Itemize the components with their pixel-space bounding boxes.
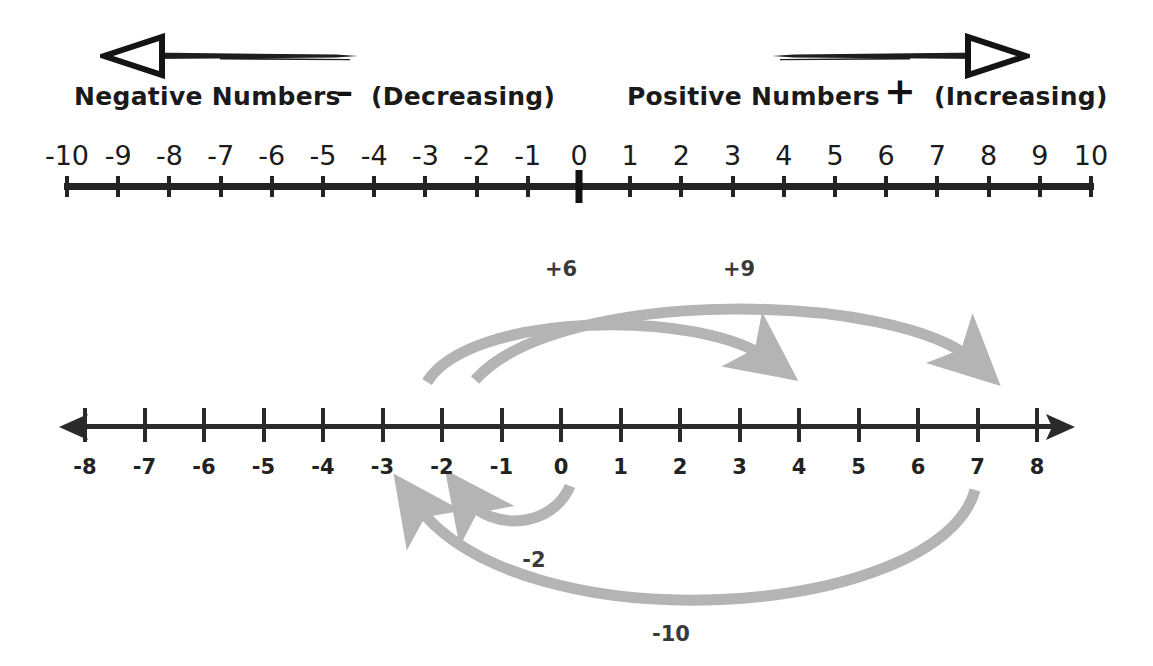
- numberline-bottom-tick-label: 8: [1030, 455, 1045, 479]
- numberline-bottom-tick: [916, 408, 920, 442]
- jump-plus-9-label: +9: [723, 257, 755, 281]
- numberline-bottom-tick: [321, 408, 325, 442]
- numberline-bottom-tick: [619, 408, 623, 442]
- numberline-bottom-tick-label: -1: [490, 455, 513, 479]
- numberline-bottom: -8-7-6-5-4-3-2-1012345678: [0, 380, 1153, 490]
- numberline-bottom-tick: [797, 408, 801, 442]
- numberline-bottom-tick-label: -8: [73, 455, 96, 479]
- worksheet-canvas: Negative Numbers – (Decreasing) Positive…: [0, 0, 1153, 666]
- numberline-bottom-left-arrowhead-icon: [58, 410, 94, 444]
- numberline-bottom-tick: [202, 408, 206, 442]
- jump-arcs-layer: [0, 0, 1153, 666]
- numberline-bottom-tick-label: 7: [970, 455, 985, 479]
- numberline-bottom-tick-label: 5: [851, 455, 866, 479]
- numberline-bottom-tick: [738, 408, 742, 442]
- numberline-bottom-tick: [143, 408, 147, 442]
- numberline-bottom-tick-label: -4: [311, 455, 334, 479]
- numberline-bottom-tick: [500, 408, 504, 442]
- numberline-bottom-tick-label: -7: [133, 455, 156, 479]
- numberline-bottom-tick: [262, 408, 266, 442]
- numberline-bottom-tick-label: 4: [792, 455, 807, 479]
- numberline-bottom-tick-label: 3: [732, 455, 747, 479]
- numberline-bottom-tick: [559, 408, 563, 442]
- jump-minus-2-label: -2: [522, 548, 545, 572]
- numberline-bottom-tick-label: 6: [911, 455, 926, 479]
- jump-minus-10-label: -10: [652, 622, 690, 646]
- numberline-bottom-tick-label: -6: [192, 455, 215, 479]
- numberline-bottom-axis: [82, 424, 1052, 429]
- numberline-bottom-tick-label: -3: [371, 455, 394, 479]
- jump-minus-10-arc: [414, 490, 975, 600]
- numberline-bottom-tick-label: 2: [673, 455, 688, 479]
- numberline-bottom-right-arrowhead-icon: [1040, 410, 1076, 444]
- numberline-bottom-tick: [83, 408, 87, 442]
- numberline-bottom-tick-label: 1: [613, 455, 628, 479]
- numberline-bottom-tick: [976, 408, 980, 442]
- numberline-bottom-tick-label: -5: [252, 455, 275, 479]
- jump-minus-2-arc: [466, 486, 570, 521]
- numberline-bottom-tick: [678, 408, 682, 442]
- jump-plus-6-label: +6: [545, 257, 577, 281]
- numberline-bottom-tick: [440, 408, 444, 442]
- numberline-bottom-tick: [1035, 408, 1039, 442]
- numberline-bottom-tick: [857, 408, 861, 442]
- numberline-bottom-tick-label: -2: [430, 455, 453, 479]
- numberline-bottom-tick: [381, 408, 385, 442]
- numberline-bottom-tick-label: 0: [554, 455, 569, 479]
